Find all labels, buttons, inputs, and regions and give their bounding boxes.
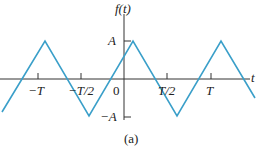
tick-label-A: A [107,33,116,48]
tick-label-negA: −A [100,109,117,124]
tick-label-negT2: −T/2 [68,83,95,98]
figure-caption: (a) [124,131,138,146]
tick-label-T2: T/2 [158,83,176,98]
y-axis-label: f(t) [115,1,131,16]
tick-label-T: T [206,83,214,98]
tick-label-negT: −T [28,83,45,98]
x-axis-label: t [251,70,255,85]
triangle-wave-figure: f(t) t A −A 0 −T −T/2 T/2 T (a) [0,0,260,156]
origin-label: 0 [113,83,120,98]
